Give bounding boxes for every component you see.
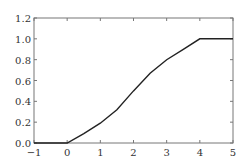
y-tick-label: 0.4 bbox=[15, 96, 31, 107]
x-tick-label: 3 bbox=[163, 147, 169, 158]
data-line bbox=[34, 39, 233, 143]
y-tick-label: 1.0 bbox=[15, 34, 31, 45]
axis-ticks bbox=[34, 18, 233, 143]
x-tick-label: 2 bbox=[130, 147, 136, 158]
x-tick-label: 5 bbox=[230, 147, 236, 158]
y-tick-label: 0.2 bbox=[15, 117, 31, 128]
plot-frame bbox=[34, 18, 233, 143]
y-tick-label: 0.6 bbox=[15, 76, 31, 87]
x-tick-label: 0 bbox=[64, 147, 70, 158]
y-tick-label: 0.0 bbox=[15, 138, 31, 149]
y-tick-label: 0.8 bbox=[15, 55, 31, 66]
y-tick-label: 1.2 bbox=[15, 13, 31, 24]
line-chart: −1012345 0.00.20.40.60.81.01.2 bbox=[0, 0, 246, 165]
x-axis-tick-labels: −1012345 bbox=[27, 147, 237, 158]
y-axis-tick-labels: 0.00.20.40.60.81.01.2 bbox=[15, 13, 31, 149]
x-tick-label: 4 bbox=[197, 147, 203, 158]
x-tick-label: 1 bbox=[97, 147, 103, 158]
